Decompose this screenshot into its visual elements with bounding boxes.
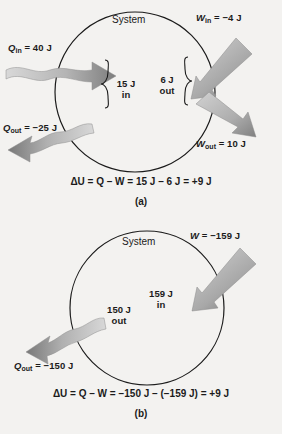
w-b-symbol: W [190, 230, 199, 241]
label-q-in: Qin = 40 J [8, 42, 52, 56]
figure-energy-flow-diagram: System Qin = 40 J Qout = −25 J Win = −4 … [0, 0, 282, 434]
q-out-value: = −25 J [24, 122, 57, 133]
q-in-value: = 40 J [24, 42, 51, 53]
net-heat-amount-a: 15 J [110, 78, 142, 89]
w-in-subscript: in [205, 17, 211, 24]
q-out-subscript: out [11, 127, 22, 134]
net-work-amount-a: 6 J [152, 74, 182, 85]
net-work-direction-b: in [142, 299, 180, 310]
net-work-amount-b: 159 J [142, 288, 180, 299]
w-in-value: = −4 J [214, 12, 242, 23]
net-work-label-b: 159 J in [142, 288, 180, 310]
net-heat-direction-a: in [110, 89, 142, 100]
system-label-a: System [112, 14, 145, 25]
w-in-symbol: W [196, 12, 205, 23]
panel-a: System Qin = 40 J Qout = −25 J Win = −4 … [0, 0, 282, 216]
q-out-b-value: = −150 J [35, 360, 73, 371]
q-out-b-subscript: out [22, 365, 33, 372]
equation-a: ΔU = Q – W = 15 J – 6 J = +9 J [0, 176, 282, 187]
label-w-out: Wout = 10 J [196, 138, 246, 152]
label-q-out: Qout = −25 J [3, 122, 57, 136]
net-work-direction-a: out [152, 85, 182, 96]
label-q-out-b: Qout = −150 J [14, 360, 73, 374]
net-heat-label-a: 15 J in [110, 78, 142, 100]
caption-b: (b) [0, 408, 282, 419]
w-b-value: = −159 J [202, 230, 240, 241]
q-out-symbol: Q [3, 122, 11, 133]
net-work-label-a: 6 J out [152, 74, 182, 96]
net-heat-direction-b: out [100, 315, 138, 326]
label-w-b: W = −159 J [190, 230, 240, 244]
w-out-value: = 10 J [219, 138, 246, 149]
q-in-symbol: Q [8, 42, 16, 53]
w-out-subscript: out [205, 143, 216, 150]
caption-a: (a) [0, 196, 282, 207]
net-heat-amount-b: 150 J [100, 304, 138, 315]
w-out-symbol: W [196, 138, 205, 149]
net-heat-label-b: 150 J out [100, 304, 138, 326]
system-label-b: System [122, 236, 155, 247]
equation-b: ΔU = Q – W = −150 J – (−159 J) = +9 J [0, 388, 282, 399]
panel-b: System W = −159 J Qout = −150 J 150 J ou… [0, 216, 282, 434]
label-w-in: Win = −4 J [196, 12, 242, 26]
q-out-b-symbol: Q [14, 360, 22, 371]
q-in-subscript: in [16, 47, 22, 54]
